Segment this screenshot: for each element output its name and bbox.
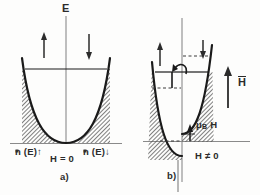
panel-a-caption: a) xyxy=(60,172,69,182)
panel-b-group xyxy=(140,18,250,192)
panel-b-condition-label: H ≠ 0 xyxy=(195,151,219,161)
panel-b-zeeman-shift-label: μB H xyxy=(196,120,217,130)
panel-b-filled-states-left xyxy=(140,72,186,164)
zeeman-subscript: B xyxy=(202,123,207,130)
panel-a-dos-spin-down-label: n (E)↓ xyxy=(83,147,110,157)
panel-a-energy-axis-label: E xyxy=(62,3,70,14)
zeeman-field-symbol: H xyxy=(210,119,217,130)
panel-b-field-direction-arrow-icon xyxy=(224,66,232,108)
panel-a-spin-down-arrow-icon xyxy=(86,34,92,60)
panel-b-spin-up-arrow-icon xyxy=(157,42,163,66)
panel-a-dos-spin-up-label: n (E)↑ xyxy=(15,147,42,157)
panel-b-caption: b) xyxy=(167,171,176,181)
panel-a-group xyxy=(10,16,122,153)
field-symbol-overbar: H xyxy=(238,76,246,89)
physics-figure-svg xyxy=(0,0,260,195)
figure-root: E n (E)↑ n (E)↓ H = 0 a) μB H H ≠ 0 H b) xyxy=(0,0,260,195)
panel-a-spin-up-arrow-icon xyxy=(41,32,47,58)
panel-b-field-label: H xyxy=(238,76,246,89)
panel-a-condition-label: H = 0 xyxy=(50,154,74,164)
